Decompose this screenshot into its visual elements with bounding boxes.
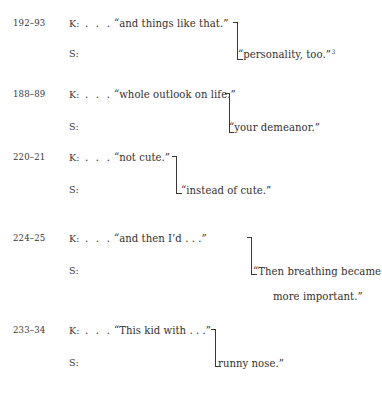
exchange-group: 233–34 K: . . .“This kid with . . .” S: …	[0, 325, 377, 375]
ellipsis: . . .	[85, 89, 114, 100]
ellipsis: . . .	[85, 233, 114, 244]
utterance-k: . . .“not cute.”	[85, 152, 170, 163]
utterance-s-text: “Then breathing became	[253, 266, 381, 277]
exchange-group: 188–89 K: . . .“whole outlook on life.” …	[0, 89, 377, 139]
utterance-k: . . .“and then I’d . . .”	[85, 233, 207, 244]
line-number: 233–34	[13, 325, 45, 335]
speaker-row-s: S: “personality, too.”3	[0, 48, 377, 66]
utterance-s: “your demeanor.”	[229, 121, 321, 133]
utterance-k-text: “This kid with . . .”	[114, 325, 211, 336]
exchange-group: 192–93 K: . . .“and things like that.” S…	[0, 18, 377, 66]
line-number: 220–21	[13, 152, 45, 162]
utterance-k-text: “and things like that.”	[114, 18, 228, 29]
speaker-label-s: S:	[69, 357, 79, 368]
speaker-label-s: S:	[69, 184, 79, 195]
speaker-label-k: K:	[69, 233, 79, 244]
footnote-marker: 3	[331, 48, 335, 55]
footnote-marker	[284, 357, 285, 364]
utterance-s-text: “instead of cute.”	[181, 185, 271, 196]
utterance-k: . . .“and things like that.”	[85, 18, 228, 29]
speaker-label-k: K:	[69, 18, 79, 29]
speaker-label-s: S:	[69, 48, 79, 59]
speaker-row-k: 233–34 K: . . .“This kid with . . .”	[0, 325, 377, 343]
line-number: 188–89	[13, 89, 45, 99]
utterance-s: runny nose.”	[218, 357, 285, 369]
utterance-s-text: runny nose.”	[218, 358, 284, 369]
speaker-label-k: K:	[69, 152, 79, 163]
ellipsis: . . .	[85, 18, 114, 29]
utterance-k: . . .“whole outlook on life.”	[85, 89, 236, 100]
footnote-marker	[271, 184, 272, 191]
utterance-s: “Then breathing became	[253, 265, 382, 277]
utterance-s-text: “your demeanor.”	[229, 122, 320, 133]
utterance-s-continued: more important.”	[273, 291, 363, 302]
speaker-label-k: K:	[69, 89, 79, 100]
line-number: 192–93	[13, 18, 45, 28]
utterance-k-text: “whole outlook on life.”	[114, 89, 236, 100]
line-number: 224–25	[13, 233, 45, 243]
speaker-row-s: S: “instead of cute.”	[0, 184, 377, 202]
ellipsis: . . .	[85, 325, 114, 336]
utterance-k: . . .“This kid with . . .”	[85, 325, 211, 336]
speaker-label-s: S:	[69, 265, 79, 276]
utterance-s-text: “personality, too.”	[238, 49, 331, 60]
utterance-s: “personality, too.”3	[238, 48, 335, 60]
speaker-row-k: 224–25 K: . . .“and then I’d . . .”	[0, 233, 377, 251]
utterance-k-text: “and then I’d . . .”	[114, 233, 207, 244]
speaker-row-s-continued: more important.”	[0, 291, 377, 309]
footnote-marker	[320, 121, 321, 128]
speaker-label-k: K:	[69, 325, 79, 336]
speaker-label-s: S:	[69, 121, 79, 132]
speaker-row-s: S: “your demeanor.”	[0, 121, 377, 139]
speaker-row-s: S: runny nose.”	[0, 357, 377, 375]
ellipsis: . . .	[85, 152, 114, 163]
speaker-row-k: 188–89 K: . . .“whole outlook on life.”	[0, 89, 377, 107]
speaker-row-k: 192–93 K: . . .“and things like that.”	[0, 18, 377, 36]
utterance-s: “instead of cute.”	[181, 184, 272, 196]
speaker-row-s: S: “Then breathing became	[0, 265, 377, 283]
speaker-row-k: 220–21 K: . . .“not cute.”	[0, 152, 377, 170]
utterance-k-text: “not cute.”	[114, 152, 170, 163]
exchange-group: 220–21 K: . . .“not cute.” S: “instead o…	[0, 152, 377, 202]
exchange-group: 224–25 K: . . .“and then I’d . . .” S: “…	[0, 233, 377, 309]
